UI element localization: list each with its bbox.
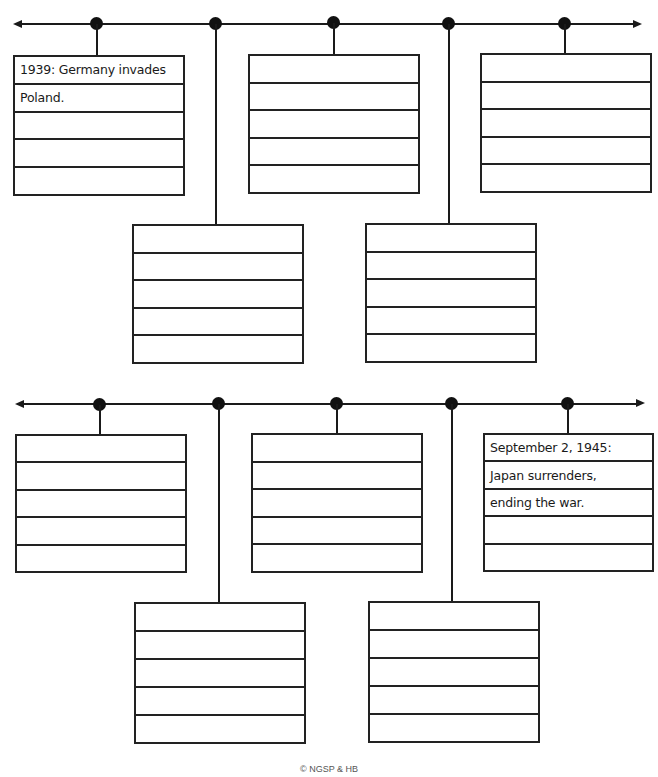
connector-line (448, 24, 450, 224)
writing-line[interactable] (134, 254, 302, 282)
writing-line[interactable] (370, 687, 538, 715)
writing-line[interactable] (253, 435, 421, 463)
writing-line[interactable] (482, 55, 650, 83)
writing-line[interactable] (134, 336, 302, 362)
writing-line[interactable] (250, 111, 418, 139)
event-box-3 (248, 54, 420, 194)
event-box-5 (480, 53, 652, 193)
writing-line[interactable] (15, 140, 183, 168)
writing-line[interactable] (482, 138, 650, 166)
arrow-right-icon (633, 20, 642, 28)
timeline-axis (20, 403, 638, 405)
writing-line[interactable] (17, 463, 185, 490)
writing-line[interactable]: 1939: Germany invades (15, 57, 183, 85)
event-box-7 (134, 602, 306, 744)
writing-line[interactable] (367, 225, 535, 253)
event-box-10: September 2, 1945: Japan surrenders, end… (483, 433, 654, 572)
writing-line[interactable] (250, 139, 418, 167)
connector-line (99, 405, 101, 435)
connector-line (567, 404, 569, 434)
writing-line[interactable] (253, 463, 421, 491)
writing-line[interactable] (367, 308, 535, 336)
copyright-notice: © NGSP & HB (0, 764, 658, 774)
writing-line[interactable] (482, 110, 650, 138)
event-box-9 (368, 601, 540, 743)
writing-line[interactable] (485, 517, 652, 544)
writing-line[interactable] (17, 491, 185, 518)
writing-line[interactable] (17, 436, 185, 463)
writing-line[interactable] (250, 84, 418, 112)
writing-line[interactable] (134, 309, 302, 337)
writing-line[interactable] (485, 545, 652, 570)
event-box-6 (15, 434, 187, 573)
writing-line[interactable] (250, 166, 418, 192)
event-box-4 (365, 223, 537, 363)
writing-line[interactable] (253, 545, 421, 571)
writing-line[interactable] (370, 659, 538, 687)
writing-line[interactable] (253, 518, 421, 546)
writing-line[interactable] (134, 226, 302, 254)
connector-line (96, 24, 98, 56)
writing-line[interactable]: Japan surrenders, (485, 462, 652, 489)
connector-line (451, 404, 453, 602)
writing-line[interactable] (136, 604, 304, 632)
connector-line (333, 23, 335, 55)
writing-line[interactable] (370, 715, 538, 741)
writing-line[interactable] (136, 660, 304, 688)
connector-line (336, 404, 338, 434)
writing-line[interactable] (134, 281, 302, 309)
writing-line[interactable] (15, 168, 183, 194)
event-box-1: 1939: Germany invades Poland. (13, 55, 185, 196)
writing-line[interactable] (253, 490, 421, 518)
connector-line (218, 404, 220, 603)
event-box-8 (251, 433, 423, 573)
writing-line[interactable] (367, 280, 535, 308)
writing-line[interactable] (15, 113, 183, 141)
writing-line[interactable] (136, 716, 304, 742)
writing-line[interactable] (17, 518, 185, 545)
writing-line[interactable] (367, 335, 535, 361)
writing-line[interactable] (367, 253, 535, 281)
event-box-2 (132, 224, 304, 364)
connector-line (215, 24, 217, 225)
arrow-right-icon (636, 399, 645, 407)
connector-line (564, 24, 566, 54)
writing-line[interactable] (250, 56, 418, 84)
writing-line[interactable] (136, 688, 304, 716)
writing-line[interactable] (370, 603, 538, 631)
writing-line[interactable] (482, 165, 650, 191)
writing-line[interactable] (136, 632, 304, 660)
writing-line[interactable] (17, 546, 185, 571)
writing-line[interactable]: September 2, 1945: (485, 435, 652, 462)
writing-line[interactable] (482, 83, 650, 111)
writing-line[interactable] (370, 631, 538, 659)
writing-line[interactable]: ending the war. (485, 490, 652, 517)
writing-line[interactable]: Poland. (15, 85, 183, 113)
